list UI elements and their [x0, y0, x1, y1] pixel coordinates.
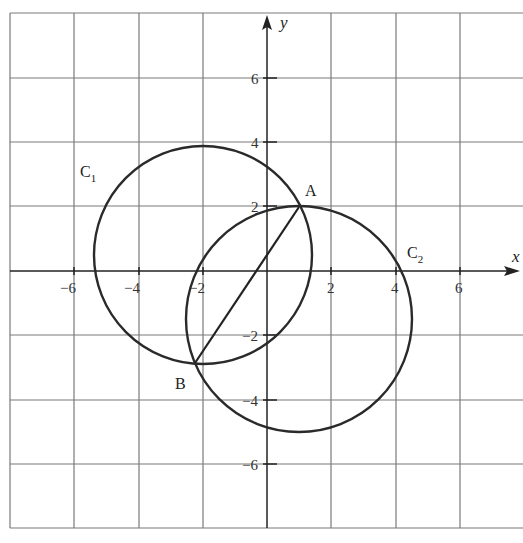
- y-tick-label: 6: [251, 71, 259, 87]
- y-tick-label: 2: [251, 199, 259, 215]
- circle-c2-label: C2: [407, 244, 423, 265]
- axes: [10, 15, 520, 528]
- y-tick-label: −6: [242, 457, 258, 473]
- coordinate-plot: y x −6 −4 −2 2 4 6 6 4 2 −2 −4 −6 C1 C2 …: [0, 0, 523, 543]
- point-b-label: B: [175, 375, 186, 392]
- point-a-label: A: [305, 182, 317, 199]
- y-tick-label: −4: [242, 393, 258, 409]
- circle-c1-label: C1: [80, 163, 96, 184]
- x-tick-label: 2: [327, 280, 335, 296]
- circle-c2: [186, 206, 412, 432]
- y-axis-label: y: [278, 13, 288, 32]
- x-tick-label: 4: [391, 280, 399, 296]
- y-tick-label: −2: [242, 328, 258, 344]
- x-tick-label: 6: [455, 280, 463, 296]
- x-axis-label: x: [511, 247, 520, 266]
- x-tick-label: −4: [124, 280, 140, 296]
- x-tick-label: −6: [60, 280, 76, 296]
- y-tick-label: 4: [251, 135, 259, 151]
